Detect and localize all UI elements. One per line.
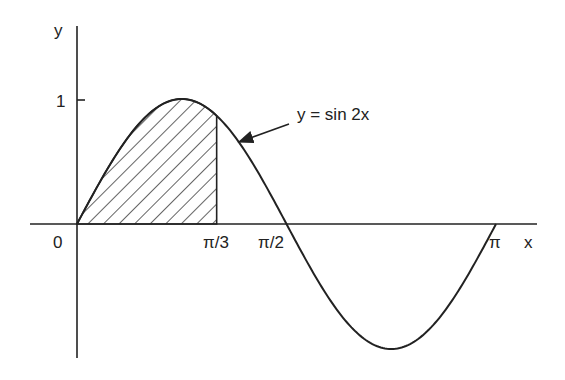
annotation-arrow (239, 124, 289, 142)
x-axis-label: x (524, 233, 533, 252)
x-tick-label-pi2: π/2 (258, 233, 284, 252)
x-tick-label-pi3: π/3 (203, 233, 229, 252)
shaded-region (77, 99, 217, 224)
curve-label: y = sin 2x (297, 105, 370, 124)
chart: y 1 0 π/3 π/2 π x y = sin 2x (0, 0, 565, 380)
origin-label: 0 (53, 233, 62, 252)
y-axis-label: y (54, 21, 63, 40)
y-tick-label-1: 1 (56, 92, 65, 111)
x-tick-label-pi: π (489, 233, 501, 252)
